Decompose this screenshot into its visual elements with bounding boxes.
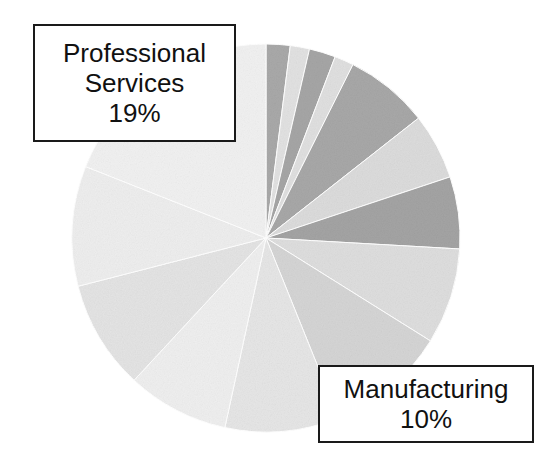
callout-manufacturing: Manufacturing 10% (318, 365, 534, 443)
pie-chart-figure: Professional Services 19% Manufacturing … (0, 0, 542, 462)
callout-professional-services-line-1: Professional (63, 38, 206, 68)
callout-manufacturing-value: 10% (400, 404, 452, 434)
callout-professional-services-value: 19% (108, 98, 160, 128)
callout-professional-services: Professional Services 19% (33, 24, 236, 142)
callout-professional-services-line-2: Services (85, 68, 185, 98)
callout-manufacturing-line-1: Manufacturing (344, 374, 509, 404)
